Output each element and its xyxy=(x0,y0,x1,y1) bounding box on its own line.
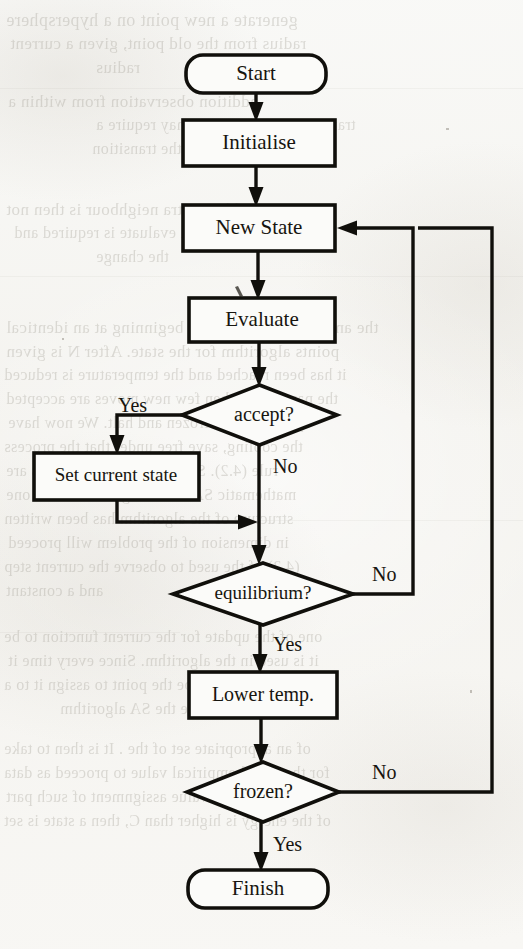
flowchart-diagram: Start Initialise New State Evaluate acce… xyxy=(0,0,523,949)
node-finish[interactable]: Finish xyxy=(188,870,328,908)
node-start-label: Start xyxy=(236,61,276,85)
branch-label-frozen-no: No xyxy=(372,761,396,783)
branch-label-accept-yes: Yes xyxy=(118,394,147,416)
dust-speck xyxy=(446,128,449,130)
node-accept-decision[interactable]: accept? xyxy=(182,385,337,445)
edge-accept-yes-to-set-current-state xyxy=(110,415,183,455)
node-evaluate-label: Evaluate xyxy=(225,307,298,331)
scanned-page: generate a new point on a hypersphererad… xyxy=(0,0,523,949)
edge-initialise-to-new-state xyxy=(249,166,264,207)
node-frozen-decision[interactable]: frozen? xyxy=(187,762,339,822)
node-equilibrium-decision[interactable]: equilibrium? xyxy=(173,563,353,625)
edge-equilibrium-yes-to-lower-temp xyxy=(253,625,268,674)
node-initialise-label: Initialise xyxy=(222,130,295,154)
branch-label-frozen-yes: Yes xyxy=(273,833,302,855)
dust-speck xyxy=(470,690,472,693)
node-initialise[interactable]: Initialise xyxy=(183,120,335,166)
branch-label-equil-yes: Yes xyxy=(273,633,302,655)
node-set-current-state-label: Set current state xyxy=(55,464,177,485)
node-new-state[interactable]: New State xyxy=(183,205,335,251)
edge-new-state-to-evaluate xyxy=(251,251,266,300)
node-start[interactable]: Start xyxy=(186,55,326,93)
node-equilibrium-label: equilibrium? xyxy=(214,582,311,603)
node-accept-label: accept? xyxy=(234,403,294,426)
scan-artifact-mark xyxy=(235,286,243,297)
edge-equilibrium-no-to-new-state xyxy=(337,221,413,595)
edge-accept-no-to-equilibrium xyxy=(252,445,267,565)
dust-speck xyxy=(62,338,64,340)
node-finish-label: Finish xyxy=(232,876,285,900)
node-set-current-state[interactable]: Set current state xyxy=(34,453,199,500)
node-evaluate[interactable]: Evaluate xyxy=(189,298,335,342)
edge-start-to-initialise xyxy=(249,93,264,122)
node-lower-temp-label: Lower temp. xyxy=(212,683,314,706)
branch-label-accept-no: No xyxy=(273,455,297,477)
node-lower-temp[interactable]: Lower temp. xyxy=(189,672,337,718)
edge-evaluate-to-accept xyxy=(252,342,267,387)
edge-lower-temp-to-frozen xyxy=(254,718,269,764)
edge-frozen-yes-to-finish xyxy=(254,822,269,872)
branch-label-equil-no: No xyxy=(372,563,396,585)
edge-set-current-state-to-merge xyxy=(117,500,258,530)
node-layer: Start Initialise New State Evaluate acce… xyxy=(34,55,353,908)
node-frozen-label: frozen? xyxy=(233,780,293,802)
node-new-state-label: New State xyxy=(216,215,303,239)
edge-frozen-no-to-new-state xyxy=(339,228,492,792)
